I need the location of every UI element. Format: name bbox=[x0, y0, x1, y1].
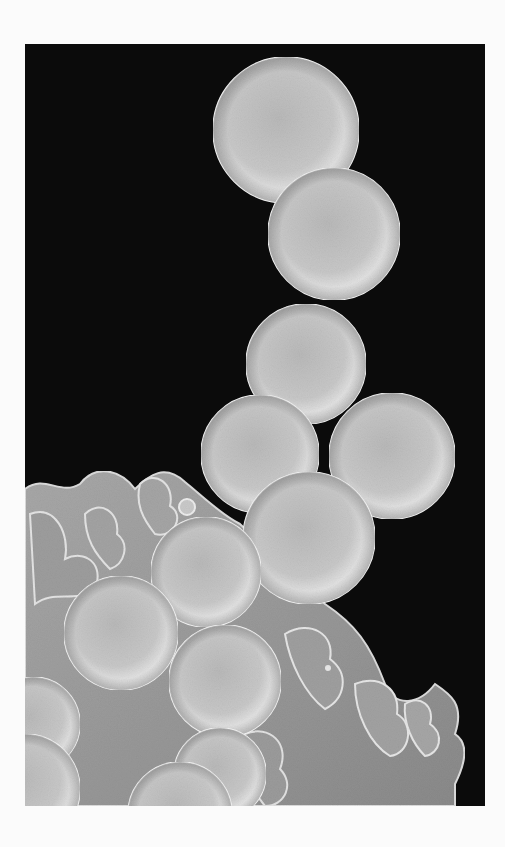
coccus-cell bbox=[169, 625, 281, 737]
micrograph-frame bbox=[25, 44, 485, 806]
coccus-cell bbox=[268, 168, 400, 300]
coccus-cell bbox=[243, 472, 375, 604]
sem-micrograph bbox=[25, 44, 485, 806]
coccus-cell bbox=[64, 576, 178, 690]
